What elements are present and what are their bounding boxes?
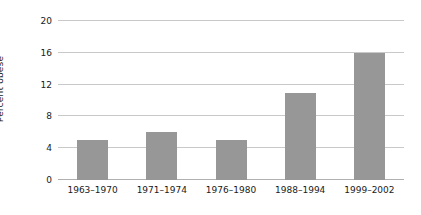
plot-area (58, 21, 404, 180)
bar (146, 132, 177, 180)
x-tick-label: 1963–1970 (58, 184, 127, 197)
y-tick-label: 8 (30, 111, 52, 121)
y-tick-label: 0 (30, 175, 52, 185)
x-axis-tick-labels: 1963–19701971–19741976–19801988–19941999… (58, 184, 404, 198)
bar (216, 140, 247, 180)
y-tick-label: 20 (30, 16, 52, 26)
y-tick-label: 16 (30, 48, 52, 58)
y-tick-label: 4 (30, 143, 52, 153)
x-tick-label: 1988–1994 (266, 184, 335, 197)
y-tick-label: 12 (30, 80, 52, 90)
gridline (58, 52, 404, 53)
x-tick-label: 1976–1980 (196, 184, 265, 197)
bar (285, 93, 316, 180)
bar (77, 140, 108, 180)
bar-chart: Percent obese 048121620 1963–19701971–19… (0, 0, 421, 215)
gridline (58, 84, 404, 85)
x-tick-label: 1971–1974 (127, 184, 196, 197)
gridline (58, 115, 404, 116)
bar (354, 53, 385, 180)
x-tick-label: 1999–2002 (335, 184, 404, 197)
gridline (58, 20, 404, 21)
